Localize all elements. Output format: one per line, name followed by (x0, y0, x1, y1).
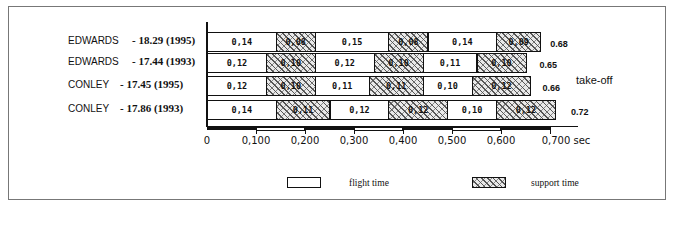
support-segment: 0,08 (276, 32, 316, 52)
flight-segment: 0,12 (207, 53, 267, 73)
axis-scale-segment (354, 127, 403, 131)
x-tick (501, 126, 502, 134)
legend-flight-label: flight time (349, 178, 389, 188)
x-tick (256, 126, 257, 134)
athlete-name: CONLEY (68, 79, 109, 90)
axis-scale-segment (256, 127, 305, 131)
flight-segment: 0,11 (315, 76, 370, 96)
axis-scale-segment (403, 126, 452, 130)
x-tick-label: 0,200 (291, 135, 320, 146)
athlete-name: EDWARDS (68, 35, 119, 46)
jump-result: - 17.44 (1993) (132, 55, 195, 67)
flight-segment: 0,14 (207, 100, 277, 120)
support-segment: 0,11 (369, 76, 424, 96)
support-segment: 0,09 (496, 32, 541, 52)
flight-segment: 0,14 (428, 32, 498, 52)
x-tick-label: 0,500 (438, 135, 467, 146)
total-time: 0.66 (542, 83, 560, 93)
support-segment: 0,12 (388, 100, 448, 120)
flight-segment: 0,12 (315, 53, 375, 73)
row-label: CONLEY- 17.86 (1993) (68, 103, 109, 114)
axis-scale-segment (207, 126, 256, 130)
jump-result: - 17.45 (1995) (120, 78, 183, 90)
total-time: 0.72 (571, 107, 589, 117)
axis-scale-segment (305, 126, 354, 130)
total-time: 0.68 (550, 39, 568, 49)
legend-support-label: support time (531, 178, 579, 188)
row-label: EDWARDS- 17.44 (1993) (68, 56, 119, 67)
x-tick (403, 126, 404, 134)
support-segment: 0,08 (388, 32, 428, 52)
x-tick (305, 126, 306, 134)
athlete-name: EDWARDS (68, 56, 119, 67)
athlete-name: CONLEY (68, 103, 109, 114)
x-tick (550, 126, 551, 134)
legend-support-swatch (472, 177, 506, 188)
row-label: EDWARDS- 18.29 (1995) (68, 35, 119, 46)
x-tick (452, 126, 453, 134)
takeoff-annotation: take-off (576, 74, 613, 86)
flight-segment: 0,15 (315, 32, 390, 52)
x-tick-label: 0,100 (242, 135, 271, 146)
x-tick-label: 0,700 sec (542, 135, 591, 146)
x-tick-label: 0,600 (487, 135, 516, 146)
axis-scale-segment (452, 127, 501, 131)
flight-segment: 0,12 (207, 76, 267, 96)
legend-flight-swatch (287, 177, 321, 188)
support-segment: 0,11 (276, 100, 331, 120)
support-segment: 0,10 (266, 76, 316, 96)
support-segment: 0,12 (472, 76, 532, 96)
flight-segment: 0,11 (423, 53, 478, 73)
support-segment: 0,10 (266, 53, 316, 73)
x-tick-label: 0,300 (340, 135, 369, 146)
x-tick-label: 0,400 (389, 135, 418, 146)
support-segment: 0,10 (477, 53, 527, 73)
row-label: CONLEY- 17.45 (1995) (68, 79, 109, 90)
jump-result: - 18.29 (1995) (132, 34, 195, 46)
jump-result: - 17.86 (1993) (120, 102, 183, 114)
support-segment: 0,10 (374, 53, 424, 73)
support-segment: 0,12 (496, 100, 556, 120)
x-tick (354, 126, 355, 134)
total-time: 0.65 (540, 60, 558, 70)
flight-segment: 0,10 (423, 76, 473, 96)
axis-scale-segment (501, 126, 550, 130)
x-tick-label: 0 (204, 135, 210, 146)
flight-segment: 0,12 (330, 100, 390, 120)
flight-segment: 0,10 (447, 100, 497, 120)
flight-segment: 0,14 (207, 32, 277, 52)
